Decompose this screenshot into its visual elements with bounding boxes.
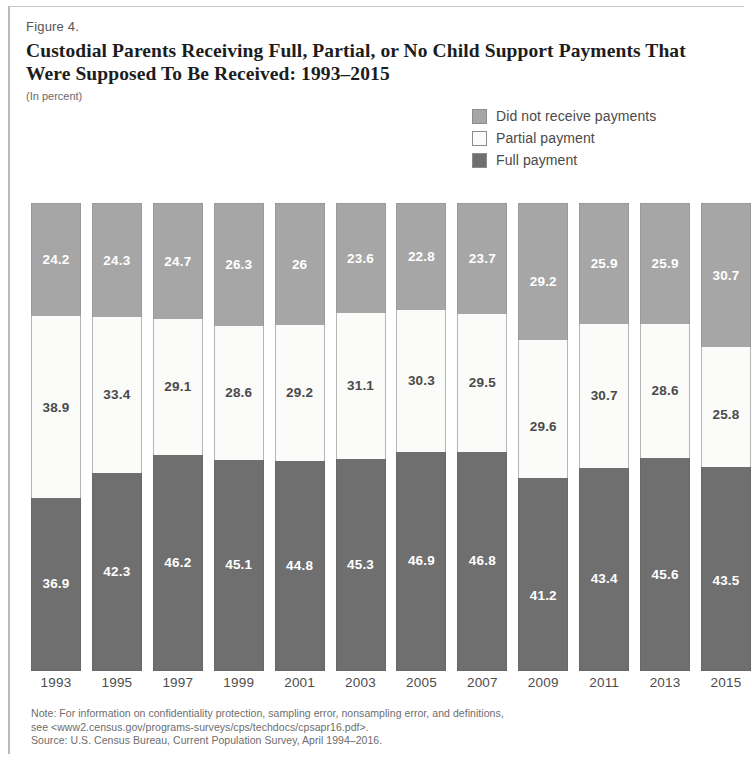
chart-legend: Did not receive paymentsPartial paymentF…	[472, 105, 722, 171]
bar-segment-partial-2015: 25.8	[701, 347, 751, 468]
bar-column-2007: 23.729.546.8	[457, 203, 507, 671]
bar-segment-did-not-receive-2001: 26	[275, 203, 325, 325]
legend-label-partial: Partial payment	[496, 130, 595, 146]
bar-segment-did-not-receive-2005: 22.8	[396, 203, 446, 310]
stacked-bar: 25.930.743.4	[579, 203, 629, 671]
bar-value-label: 25.9	[652, 257, 679, 271]
stacked-bar: 23.631.145.3	[336, 203, 386, 671]
x-axis-label-1993: 1993	[31, 675, 81, 690]
figure-footnotes: Note: For information on confidentiality…	[31, 707, 711, 748]
bar-value-label: 43.4	[591, 572, 618, 586]
bar-value-label: 24.7	[164, 255, 191, 269]
bar-value-label: 25.9	[591, 257, 618, 271]
bar-segment-did-not-receive-2003: 23.6	[336, 203, 386, 313]
bar-segment-partial-1999: 28.6	[214, 326, 264, 460]
bar-column-1995: 24.333.442.3	[92, 203, 142, 671]
bar-segment-partial-2003: 31.1	[336, 313, 386, 459]
bar-value-label: 45.6	[652, 568, 679, 582]
bar-column-1997: 24.729.146.2	[153, 203, 203, 671]
bar-value-label: 28.6	[652, 384, 679, 398]
footnote-source: Source: U.S. Census Bureau, Current Popu…	[31, 734, 711, 748]
legend-item-partial: Partial payment	[472, 127, 722, 149]
legend-swatch-partial	[472, 131, 487, 146]
bar-column-1999: 26.328.645.1	[214, 203, 264, 671]
bar-value-label: 46.2	[164, 556, 191, 570]
bar-segment-did-not-receive-2015: 30.7	[701, 203, 751, 347]
bar-segment-did-not-receive-1999: 26.3	[214, 203, 264, 326]
bar-segment-full-2013: 45.6	[640, 458, 690, 671]
bar-segment-partial-2009: 29.6	[518, 340, 568, 479]
x-axis-label-2013: 2013	[640, 675, 690, 690]
bar-value-label: 41.2	[530, 589, 557, 603]
stacked-bar: 22.830.346.9	[396, 203, 446, 671]
bar-value-label: 29.2	[530, 275, 557, 289]
bar-value-label: 28.6	[225, 386, 252, 400]
bar-segment-full-2009: 41.2	[518, 478, 568, 671]
stacked-bar: 2629.244.8	[275, 203, 325, 671]
stacked-bar: 23.729.546.8	[457, 203, 507, 671]
bar-value-label: 45.3	[347, 558, 374, 572]
bar-segment-partial-2013: 28.6	[640, 324, 690, 458]
bar-segment-partial-1997: 29.1	[153, 319, 203, 455]
footnote-note-line-1: Note: For information on confidentiality…	[31, 707, 711, 721]
bar-value-label: 36.9	[42, 577, 69, 591]
bar-segment-partial-2005: 30.3	[396, 310, 446, 452]
bar-value-label: 26.3	[225, 258, 252, 272]
bar-value-label: 26	[292, 258, 307, 272]
bar-segment-partial-1995: 33.4	[92, 317, 142, 473]
legend-item-full: Full payment	[472, 149, 722, 171]
bar-segment-full-1993: 36.9	[31, 498, 81, 671]
bar-value-label: 29.5	[469, 376, 496, 390]
x-axis-label-2005: 2005	[396, 675, 446, 690]
legend-swatch-did_not_receive	[472, 109, 487, 124]
stacked-bar: 30.725.843.5	[701, 203, 751, 671]
bar-value-label: 22.8	[408, 250, 435, 264]
bar-column-2011: 25.930.743.4	[579, 203, 629, 671]
bar-segment-full-2003: 45.3	[336, 459, 386, 671]
stacked-bar: 26.328.645.1	[214, 203, 264, 671]
bar-segment-partial-2011: 30.7	[579, 324, 629, 468]
bar-segment-full-2015: 43.5	[701, 467, 751, 671]
legend-swatch-full	[472, 153, 487, 168]
bar-column-2009: 29.229.641.2	[518, 203, 568, 671]
bar-segment-partial-2001: 29.2	[275, 325, 325, 462]
bar-segment-did-not-receive-1995: 24.3	[92, 203, 142, 317]
bar-value-label: 43.5	[712, 574, 739, 588]
chart-plot-area: 24.238.936.924.333.442.324.729.146.226.3…	[31, 203, 751, 671]
bar-segment-full-1999: 45.1	[214, 460, 264, 671]
x-axis-label-2001: 2001	[275, 675, 325, 690]
bar-segment-did-not-receive-1993: 24.2	[31, 203, 81, 316]
bar-value-label: 23.6	[347, 252, 374, 266]
bar-segment-full-1997: 46.2	[153, 455, 203, 671]
figure-card: Figure 4. Custodial Parents Receiving Fu…	[8, 6, 744, 754]
stacked-bar: 25.928.645.6	[640, 203, 690, 671]
bar-value-label: 45.1	[225, 558, 252, 572]
x-axis-label-1995: 1995	[92, 675, 142, 690]
stacked-bar: 24.238.936.9	[31, 203, 81, 671]
legend-label-did_not_receive: Did not receive payments	[496, 108, 656, 124]
stacked-bar: 24.729.146.2	[153, 203, 203, 671]
bar-segment-did-not-receive-2013: 25.9	[640, 203, 690, 324]
bar-segment-full-1995: 42.3	[92, 473, 142, 671]
footnote-note-line-2: see <www2.census.gov/programs-surveys/cp…	[31, 721, 711, 735]
bar-column-2015: 30.725.843.5	[701, 203, 751, 671]
bar-value-label: 29.6	[530, 420, 557, 434]
bar-value-label: 30.3	[408, 374, 435, 388]
bar-value-label: 24.2	[42, 253, 69, 267]
bar-value-label: 46.9	[408, 554, 435, 568]
bar-column-2005: 22.830.346.9	[396, 203, 446, 671]
bar-value-label: 29.2	[286, 386, 313, 400]
bar-value-label: 23.7	[469, 252, 496, 266]
bar-segment-did-not-receive-2011: 25.9	[579, 203, 629, 324]
x-axis-label-1997: 1997	[153, 675, 203, 690]
x-axis-label-2015: 2015	[701, 675, 751, 690]
x-axis-label-2011: 2011	[579, 675, 629, 690]
bar-column-2001: 2629.244.8	[275, 203, 325, 671]
bar-segment-full-2011: 43.4	[579, 468, 629, 671]
bar-value-label: 33.4	[103, 388, 130, 402]
bar-column-2003: 23.631.145.3	[336, 203, 386, 671]
x-axis-label-2009: 2009	[518, 675, 568, 690]
bar-value-label: 31.1	[347, 379, 374, 393]
figure-number: Figure 4.	[26, 19, 730, 35]
x-axis-label-1999: 1999	[214, 675, 264, 690]
